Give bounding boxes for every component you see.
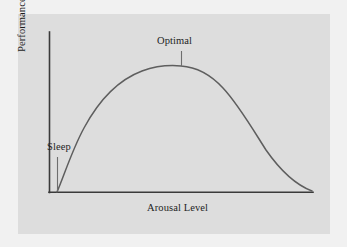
optimal-annotation-label: Optimal (157, 36, 192, 47)
figure-root: Performance Effectiveness Arousal Level … (0, 0, 347, 247)
sleep-annotation-label: Sleep (47, 142, 71, 153)
x-axis-label: Arousal Level (147, 203, 208, 214)
performance-curve (57, 66, 312, 192)
y-axis-label: Performance Effectiveness (17, 0, 28, 52)
